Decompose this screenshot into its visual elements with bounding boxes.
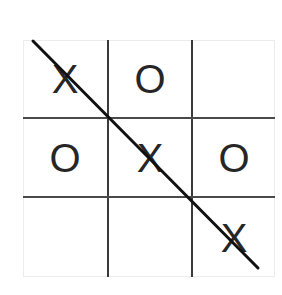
tic-tac-toe-board: X O O X O X: [23, 40, 275, 277]
cell-r1-c3[interactable]: [193, 40, 275, 117]
cell-r2-c2[interactable]: X: [109, 119, 191, 196]
cell-r2-c1[interactable]: O: [23, 119, 107, 196]
cell-r2-c3[interactable]: O: [193, 119, 275, 196]
cell-r3-c2[interactable]: [109, 198, 191, 277]
cell-r3-c1[interactable]: [23, 198, 107, 277]
cell-r1-c1[interactable]: X: [23, 40, 107, 117]
cell-r1-c2[interactable]: O: [109, 40, 191, 117]
cell-r3-c3[interactable]: X: [193, 198, 275, 277]
